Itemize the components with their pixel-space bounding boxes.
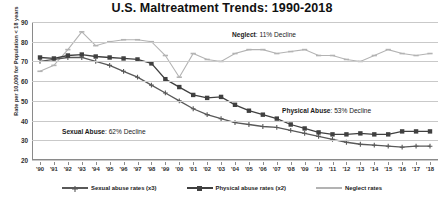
legend-item[interactable]: Physical abuse rates (x2)	[187, 184, 286, 192]
gridline	[32, 61, 438, 62]
chart-title: U.S. Maltreatment Trends: 1990-2018	[0, 1, 444, 15]
x-tick-mark	[82, 162, 83, 165]
x-tick-mark	[54, 162, 55, 165]
chart-legend: Sexual abuse rates (x3)Physical abuse ra…	[0, 180, 444, 196]
gridline	[32, 140, 438, 141]
x-tick-mark	[305, 162, 306, 165]
y-tick-label: 40	[8, 117, 28, 124]
x-tick-mark	[235, 162, 236, 165]
x-tick-mark	[138, 162, 139, 165]
x-tick-mark	[179, 162, 180, 165]
x-tick-mark	[249, 162, 250, 165]
x-tick-mark	[124, 162, 125, 165]
gridline	[32, 42, 438, 43]
x-tick-mark	[68, 162, 69, 165]
gridline	[32, 81, 438, 82]
x-tick-mark	[416, 162, 417, 165]
x-tick-mark	[430, 162, 431, 165]
gridline	[32, 22, 438, 23]
legend-swatch-icon	[62, 184, 88, 192]
plot-area	[32, 22, 438, 160]
legend-item[interactable]: Neglect rates	[316, 184, 382, 192]
y-tick-label: 90	[8, 19, 28, 26]
legend-label: Sexual abuse rates (x3)	[91, 185, 157, 191]
y-tick-label: 60	[8, 78, 28, 85]
legend-item[interactable]: Sexual abuse rates (x3)	[62, 184, 157, 192]
y-tick-label: 50	[8, 97, 28, 104]
gridline	[32, 101, 438, 102]
physical-abuse-annotation: Physical Abuse: 53% Decline	[282, 107, 371, 114]
x-tick-mark	[96, 162, 97, 165]
x-tick-mark	[360, 162, 361, 165]
x-tick-mark	[263, 162, 264, 165]
x-tick-mark	[333, 162, 334, 165]
y-tick-label: 20	[8, 157, 28, 164]
y-tick-label: 70	[8, 58, 28, 65]
x-tick-mark	[291, 162, 292, 165]
x-tick-mark	[40, 162, 41, 165]
x-tick-mark	[346, 162, 347, 165]
x-tick-mark	[319, 162, 320, 165]
x-tick-mark	[402, 162, 403, 165]
x-tick-mark	[374, 162, 375, 165]
gridline	[32, 121, 438, 122]
chart-container: U.S. Maltreatment Trends: 1990-2018 Rate…	[0, 0, 444, 199]
x-tick-mark	[277, 162, 278, 165]
y-tick-label: 80	[8, 38, 28, 45]
x-tick-mark	[193, 162, 194, 165]
x-tick-mark	[151, 162, 152, 165]
x-tick-mark	[207, 162, 208, 165]
x-tick-label: '18	[419, 166, 441, 172]
y-tick-label: 30	[8, 137, 28, 144]
y-axis-ticks: 2030405060708090	[8, 0, 28, 199]
x-tick-mark	[165, 162, 166, 165]
x-axis-ticks: '90'91'92'93'94'95'96'97'98'99'00'01'02'…	[32, 162, 438, 178]
legend-label: Neglect rates	[345, 185, 382, 191]
neglect-annotation: Neglect: 11% Decline	[232, 31, 296, 38]
legend-swatch-icon	[316, 184, 342, 192]
legend-label: Physical abuse rates (x2)	[216, 185, 286, 191]
gridline	[32, 160, 438, 161]
x-tick-mark	[110, 162, 111, 165]
x-tick-mark	[221, 162, 222, 165]
legend-swatch-icon	[187, 184, 213, 192]
x-tick-mark	[388, 162, 389, 165]
sexual-abuse-annotation: Sexual Abuse: 62% Decline	[62, 128, 146, 135]
